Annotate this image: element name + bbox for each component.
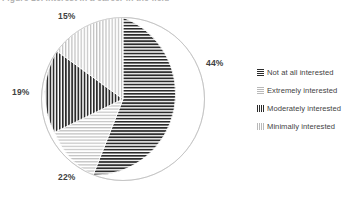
data-label-minimally-interested: 15% — [58, 11, 76, 21]
legend-item-not-at-all-interested[interactable]: Not at all interested — [257, 64, 360, 80]
legend-item-minimally-interested[interactable]: Minimally interested — [257, 118, 360, 134]
legend-label-moderately-interested: Moderately interested — [267, 104, 341, 113]
legend-swatch-icon-extremely-interested — [257, 87, 264, 94]
legend-item-extremely-interested[interactable]: Extremely interested — [257, 82, 360, 98]
data-label-extremely-interested: 22% — [58, 172, 76, 182]
pie-chart-area: 44% 22% 19% 15% — [0, 0, 250, 197]
legend-label-not-at-all-interested: Not at all interested — [267, 68, 333, 77]
legend-swatch-icon-not-at-all-interested — [257, 69, 264, 76]
legend-label-minimally-interested: Minimally interested — [267, 122, 335, 131]
pie-chart-svg — [0, 0, 250, 197]
legend-swatch-icon-minimally-interested — [257, 123, 264, 130]
data-label-not-at-all-interested: 44% — [206, 58, 224, 68]
legend-label-extremely-interested: Extremely interested — [267, 86, 337, 95]
chart-legend: Not at all interested Extremely interest… — [257, 64, 360, 136]
data-label-moderately-interested: 19% — [12, 87, 30, 97]
legend-item-moderately-interested[interactable]: Moderately interested — [257, 100, 360, 116]
legend-swatch-icon-moderately-interested — [257, 105, 264, 112]
